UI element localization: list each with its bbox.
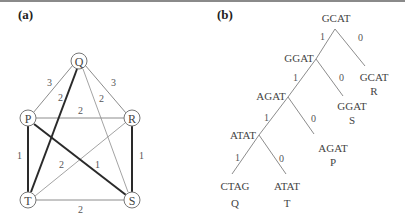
edge-label-rs: 1 (139, 150, 144, 161)
branch-label-n1-right: 0 (339, 72, 344, 83)
tree-n3-seq: ATAT (230, 129, 256, 141)
leaf-t-name: T (284, 197, 291, 209)
node-r: R (124, 110, 140, 126)
leaf-p-name: P (330, 156, 336, 168)
leaf-s-name: S (349, 114, 355, 126)
branch-label-root-right: 0 (358, 32, 363, 43)
branch-root-left (316, 29, 335, 59)
tree-internal-nodes: GCAT GGAT AGAT ATAT (230, 12, 351, 141)
node-r-label: R (128, 112, 136, 126)
node-s: S (124, 192, 140, 208)
graph-edges (28, 65, 132, 200)
node-p-label: P (25, 112, 32, 126)
branch-label-n2-right: 0 (311, 113, 316, 124)
node-q: Q (71, 53, 87, 69)
edge-q-s (83, 69, 128, 192)
node-q-label: Q (75, 55, 84, 69)
node-t: T (20, 192, 36, 208)
edge-label-pt: 1 (17, 150, 22, 161)
edge-label-pr: 2 (78, 105, 83, 116)
leaf-t-seq: ATAT (274, 180, 300, 192)
tree-n2-seq: AGAT (256, 90, 286, 102)
tree-n1-seq: GGAT (284, 52, 314, 64)
tree-root-seq: GCAT (322, 12, 351, 24)
edge-p-s-bold (34, 124, 126, 195)
edge-label-qt: 2 (58, 92, 63, 103)
branch-label-n2-left: 1 (264, 112, 269, 123)
leaf-s-seq: GGAT (337, 100, 367, 112)
edge-label-ps: 1 (95, 159, 100, 170)
branch-label-n3-right: 0 (279, 153, 284, 164)
edge-label-ts: 2 (78, 204, 83, 215)
node-s-label: S (129, 194, 136, 208)
graph-nodes: Q P R T S (20, 53, 140, 208)
node-p: P (20, 110, 36, 126)
leaf-p-seq: AGAT (318, 142, 348, 154)
edge-q-p (33, 65, 73, 113)
leaf-q-name: Q (231, 197, 239, 209)
branch-label-n3-left: 1 (235, 152, 240, 163)
figure-canvas: (a) 3 3 2 2 2 1 2 1 1 2 Q P (0, 0, 405, 222)
edge-label-qs: 2 (99, 93, 104, 104)
branch-label-root-left: 1 (320, 31, 325, 42)
panel-a-label: (a) (18, 7, 33, 22)
panel-b-label: (b) (217, 7, 233, 22)
edge-label-qr: 3 (111, 77, 116, 88)
edge-q-r (85, 65, 126, 113)
leaf-r-seq: GCAT (360, 71, 389, 83)
node-t-label: T (24, 194, 32, 208)
leaf-r-name: R (370, 85, 378, 97)
branch-label-n1-left: 1 (293, 72, 298, 83)
leaf-q-seq: CTAG (220, 180, 249, 192)
edge-label-qp: 3 (47, 77, 52, 88)
edge-label-rt: 2 (59, 159, 64, 170)
